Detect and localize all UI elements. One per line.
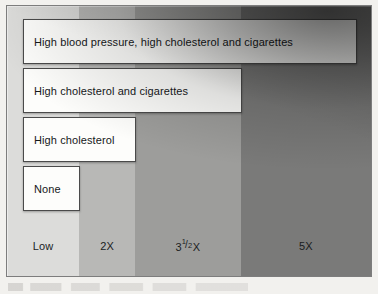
- bar-label: High cholesterol and cigarettes: [24, 85, 188, 97]
- axis-tick-low: Low: [7, 216, 79, 276]
- axis-tick-label: Low: [33, 240, 54, 252]
- fraction-denominator: 2: [188, 241, 192, 250]
- bar-none[interactable]: None: [23, 166, 80, 211]
- bar-chol-cigarettes[interactable]: High cholesterol and cigarettes: [23, 68, 242, 113]
- axis-tick-two-x: 2X: [79, 216, 135, 276]
- axis-tick-suffix: X: [193, 241, 201, 253]
- axis-tick-label: 2X: [100, 240, 114, 252]
- axis-tick-label: 5X: [299, 240, 313, 252]
- axis-tick-container: Low 2X 31/2X 5X: [7, 216, 371, 276]
- caption-ghost-text: [8, 283, 248, 291]
- axis-tick-three-half: 31/2X: [135, 216, 241, 276]
- bar-label: High blood pressure, high cholesterol an…: [24, 36, 293, 48]
- risk-chart-figure: High blood pressure, high cholesterol an…: [6, 5, 372, 277]
- axis-tick-label: 31/2X: [175, 240, 200, 253]
- bar-high-cholesterol[interactable]: High cholesterol: [23, 117, 136, 162]
- fraction-one-half: 1/2: [182, 240, 193, 251]
- bar-label: None: [24, 183, 61, 195]
- bar-label: High cholesterol: [24, 134, 114, 146]
- axis-tick-five-x: 5X: [241, 216, 371, 276]
- bar-bp-chol-cigarettes[interactable]: High blood pressure, high cholesterol an…: [23, 19, 357, 64]
- scanned-page: High blood pressure, high cholesterol an…: [0, 0, 378, 294]
